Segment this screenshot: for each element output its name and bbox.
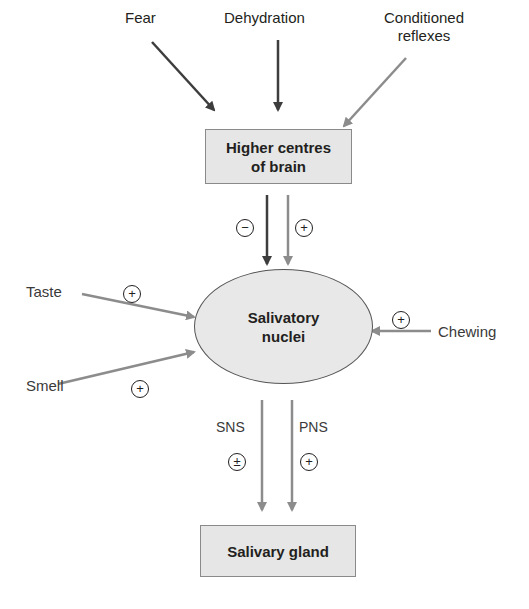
label-sns: SNS [216, 419, 245, 435]
label-fear: Fear [125, 9, 156, 26]
smell-sign: + [131, 380, 149, 398]
label-chewing: Chewing [438, 323, 496, 340]
label-conditioned-reflexes: Conditioned reflexes [369, 9, 479, 45]
sns-sign: ± [228, 453, 246, 471]
excite-sign: + [295, 219, 313, 237]
label-smell: Smell [26, 377, 64, 394]
salivary-gland-box: Salivary gland [200, 525, 356, 577]
pns-sign: + [300, 453, 318, 471]
salivatory-nuclei: Salivatory nuclei [194, 269, 373, 384]
higher-centres-box: Higher centres of brain [205, 129, 352, 184]
arrow-conditioned [344, 58, 406, 126]
taste-sign: + [123, 285, 141, 303]
label-taste: Taste [26, 283, 62, 300]
arrow-fear [152, 42, 214, 110]
chewing-sign: + [392, 311, 410, 329]
inhibit-sign: − [236, 219, 254, 237]
label-dehydration: Dehydration [224, 9, 305, 26]
label-pns: PNS [299, 419, 328, 435]
arrow-smell [58, 352, 194, 384]
